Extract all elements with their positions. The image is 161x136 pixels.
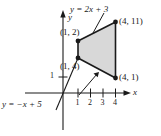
point-label-4-11: (4, 11)	[119, 17, 143, 26]
point-label-1-2: (1, 2)	[60, 28, 80, 37]
vertex-dot-1-4	[76, 56, 81, 61]
vertex-dot-4-11	[113, 20, 118, 25]
upper-line-equation-label: y = 2x + 3	[70, 5, 108, 14]
y-axis-arrow-icon	[60, 10, 65, 18]
x-tick-label-4: 4	[113, 99, 117, 107]
vertex-dot-1-2	[76, 39, 81, 44]
vertex-dot-4-1	[113, 76, 118, 81]
point-label-1-4: (1, 4)	[60, 62, 80, 71]
x-tick-label-2: 2	[88, 99, 92, 107]
y-tick-label-1: 1	[50, 72, 54, 80]
x-tick-label-3: 3	[101, 99, 105, 107]
x-axis-arrow-icon	[124, 90, 132, 95]
x-axis-label: x	[133, 88, 137, 97]
lower-line-equation-label: y = −x + 5	[2, 100, 42, 109]
shaded-region	[78, 22, 116, 78]
point-label-4-1: (4, 1)	[119, 73, 139, 82]
y-axis-label: y	[68, 13, 72, 22]
x-tick-label-1: 1	[76, 99, 80, 107]
leader-line-lower	[79, 74, 97, 95]
figure-container: y x y = 2x + 3 y = −x + 5 (1, 2) (4, 11)…	[0, 0, 161, 136]
